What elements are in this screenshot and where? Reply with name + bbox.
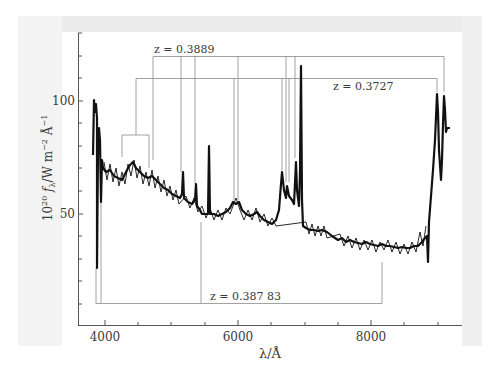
x-axis-title: λ/Å <box>259 346 282 361</box>
y-tick-label-50: 50 <box>60 207 75 221</box>
scan-band-right <box>462 16 482 346</box>
annotation-z-0-3727: z = 0.3727 <box>333 80 394 93</box>
annotation-z-0-38783: z = 0.387 83 <box>210 290 281 303</box>
annotation-z-0-3889: z = 0.3889 <box>154 43 215 56</box>
y-tick-label-100: 100 <box>52 94 75 108</box>
scan-band-left <box>18 16 62 346</box>
chart-canvas: 4000 6000 8000 100 50 λ/Å 1020 fλ/W m−2 … <box>0 0 492 377</box>
scan-band-top <box>18 16 482 32</box>
x-tick-label-8000: 8000 <box>356 330 387 344</box>
x-tick-label-6000: 6000 <box>223 330 254 344</box>
x-tick-label-4000: 4000 <box>90 330 121 344</box>
